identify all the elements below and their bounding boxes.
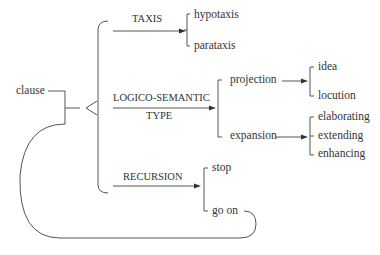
simultaneous-bracket (86, 101, 97, 115)
system-type: TYPE (146, 111, 172, 122)
option-locution: locution (318, 90, 356, 102)
system-taxis: TAXIS (132, 14, 162, 25)
clause-connector (48, 91, 65, 124)
option-parataxis: parataxis (194, 40, 236, 52)
option-extending: extending (318, 130, 363, 142)
root-clause: clause (16, 85, 45, 97)
option-hypotaxis: hypotaxis (194, 9, 239, 21)
option-projection: projection (230, 74, 277, 86)
option-expansion: expansion (230, 130, 277, 142)
option-idea: idea (318, 61, 337, 73)
option-stop: stop (212, 162, 231, 174)
system-recursion: RECURSION (123, 172, 183, 183)
diagram-lines (0, 0, 380, 255)
option-go-on: go on (212, 205, 238, 217)
system-logico-semantic: LOGICO-SEMANTIC (113, 93, 210, 104)
option-enhancing: enhancing (318, 148, 365, 160)
option-elaborating: elaborating (318, 111, 370, 123)
systems-bracket (98, 21, 108, 193)
